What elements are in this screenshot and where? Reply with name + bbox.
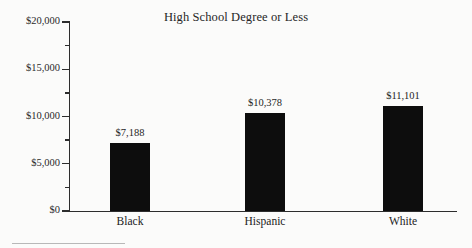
x-axis-category-label: Black: [80, 215, 180, 227]
y-axis-tick-label: $20,000: [0, 15, 60, 26]
y-axis-major-tick: [62, 116, 70, 117]
y-axis-tick-label: $10,000: [0, 110, 60, 121]
x-axis-category-label: Hispanic: [215, 215, 315, 227]
y-axis-tick-label: $0: [0, 204, 60, 215]
footnote-separator-rule: [12, 243, 125, 244]
y-axis-major-tick: [62, 210, 70, 211]
chart-title: High School Degree or Less: [0, 10, 472, 25]
bar-chart-figure: High School Degree or Less $0$5,000$10,0…: [0, 0, 472, 248]
y-axis-major-tick: [62, 163, 70, 164]
y-axis-tick-label: $15,000: [0, 62, 60, 73]
bar-value-label: $10,378: [220, 97, 310, 108]
y-axis-tick-labels: $0$5,000$10,000$15,000$20,000: [0, 0, 60, 248]
y-axis-minor-tick: [65, 139, 71, 140]
y-axis-minor-tick: [65, 187, 71, 188]
bar-value-label: $7,188: [85, 127, 175, 138]
bar-white: [383, 106, 423, 211]
bar-black: [110, 143, 150, 211]
y-axis-major-tick: [62, 69, 70, 70]
y-axis-minor-tick: [65, 92, 71, 93]
y-axis-major-tick: [62, 21, 70, 22]
y-axis-tick-label: $5,000: [0, 157, 60, 168]
bar-value-label: $11,101: [358, 90, 448, 101]
x-axis-category-label: White: [353, 215, 453, 227]
y-axis-minor-tick: [65, 45, 71, 46]
bar-hispanic: [245, 113, 285, 211]
